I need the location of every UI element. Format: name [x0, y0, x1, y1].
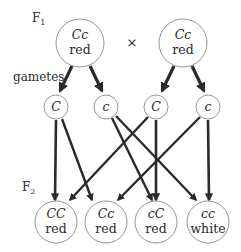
arrow-icon: [162, 66, 174, 91]
gamete-node: C: [44, 95, 68, 119]
arrow-icon: [112, 118, 152, 200]
genotype-text: Cc: [175, 27, 192, 42]
svg-text:C: C: [51, 99, 61, 114]
svg-text:red: red: [95, 221, 116, 236]
gamete-node: c: [196, 95, 220, 119]
genotype-text: Cc: [72, 27, 89, 42]
parent-node: Cc red: [56, 19, 104, 67]
svg-text:c: c: [204, 99, 211, 114]
svg-text:cc: cc: [201, 206, 215, 221]
f2-label: F2: [22, 180, 35, 196]
svg-text:red: red: [145, 221, 166, 236]
gamete-to-offspring-arrows: [55, 116, 209, 200]
svg-text:C: C: [151, 99, 161, 114]
arrow-icon: [55, 120, 56, 200]
svg-text:white: white: [190, 221, 225, 236]
gametes-label: gametes: [13, 70, 64, 84]
svg-text:Cc: Cc: [98, 206, 115, 221]
arrow-icon: [62, 119, 92, 200]
phenotype-text: red: [172, 42, 193, 57]
genetic-cross-diagram: F1 gametes F2 × Cc red Cc red C c: [0, 0, 241, 252]
gamete-node: c: [94, 95, 118, 119]
offspring-node: CC red: [35, 201, 77, 243]
arrow-icon: [90, 66, 102, 91]
offspring-node: cC red: [135, 201, 177, 243]
cross-symbol: ×: [127, 35, 138, 50]
phenotype-text: red: [69, 42, 90, 57]
gamete-node: C: [144, 95, 168, 119]
arrow-icon: [70, 117, 148, 200]
f1-label: F1: [32, 11, 45, 27]
svg-text:red: red: [45, 221, 66, 236]
parent-node: Cc red: [159, 19, 207, 67]
offspring-node: cc white: [187, 201, 229, 243]
parent-to-gamete-arrows: [60, 66, 204, 91]
svg-text:cC: cC: [148, 206, 165, 221]
svg-text:c: c: [102, 99, 109, 114]
arrow-icon: [192, 66, 204, 91]
offspring-node: Cc red: [85, 201, 127, 243]
svg-text:CC: CC: [46, 206, 66, 221]
arrow-icon: [208, 120, 209, 200]
